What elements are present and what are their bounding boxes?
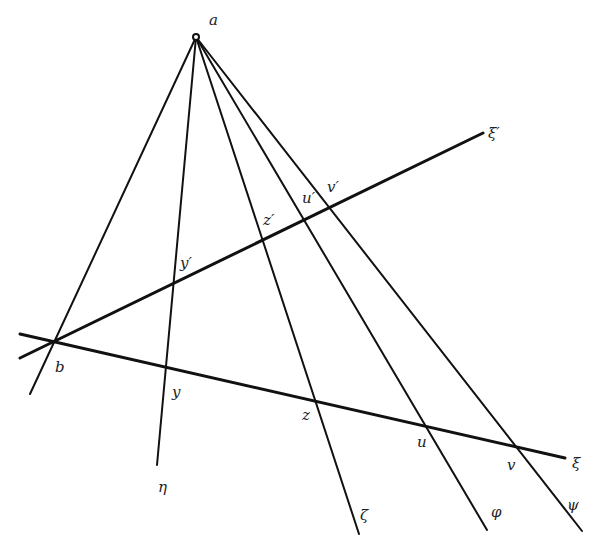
label-phi: φ bbox=[491, 503, 502, 521]
label-u: u bbox=[417, 433, 427, 451]
label-eta: η bbox=[158, 478, 167, 496]
label-y: y bbox=[171, 383, 181, 401]
label-z-prime: z′ bbox=[262, 211, 275, 229]
label-v: v bbox=[507, 456, 516, 474]
projective-diagram: a b y z u v y′ z′ u′ v′ ξ ξ′ η ζ φ ψ bbox=[0, 0, 596, 551]
label-xi: ξ bbox=[572, 454, 581, 472]
label-y-prime: y′ bbox=[179, 254, 192, 272]
label-zeta: ζ bbox=[360, 506, 369, 524]
label-b: b bbox=[55, 358, 65, 376]
line-xi bbox=[20, 334, 565, 458]
line-xi-prime bbox=[20, 133, 483, 358]
label-a: a bbox=[209, 11, 218, 29]
label-z: z bbox=[301, 406, 310, 424]
label-v-prime: v′ bbox=[327, 178, 339, 196]
line-psi bbox=[196, 37, 582, 531]
line-zeta bbox=[196, 37, 359, 534]
label-psi: ψ bbox=[567, 496, 579, 514]
label-xi-prime: ξ′ bbox=[488, 124, 500, 142]
line-phi bbox=[196, 37, 487, 530]
point-a-marker bbox=[193, 34, 199, 40]
label-u-prime: u′ bbox=[302, 189, 316, 207]
